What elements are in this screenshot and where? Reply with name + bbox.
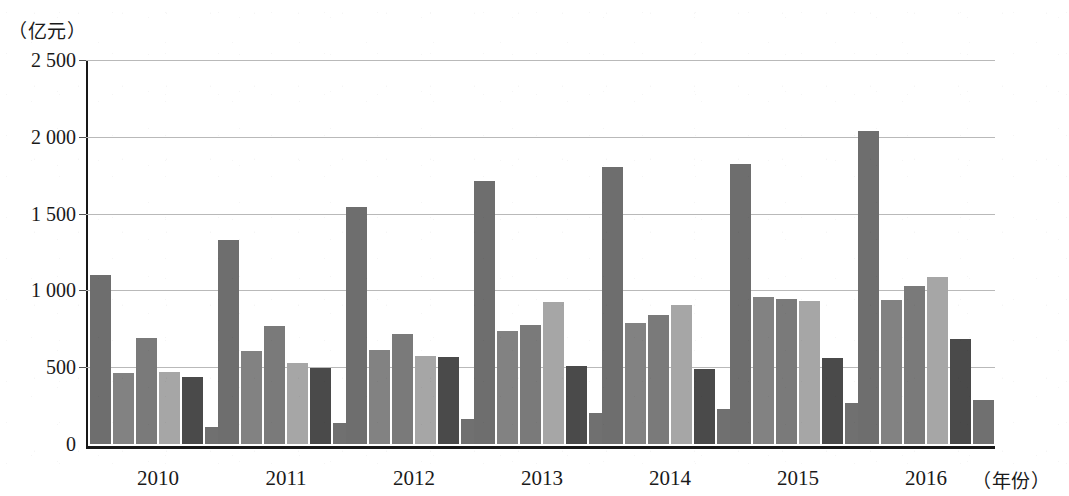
plot-area <box>86 60 995 447</box>
bar <box>927 277 948 444</box>
y-axis-tick-label: 500 <box>6 356 76 379</box>
bar <box>182 377 203 444</box>
bar <box>950 339 971 444</box>
bar <box>438 357 459 444</box>
y-axis-tick-label: 0 <box>6 433 76 456</box>
x-axis-line <box>86 446 995 449</box>
y-axis-tick-label: 1 500 <box>6 202 76 225</box>
y-axis-tick <box>79 60 86 61</box>
bar <box>881 300 902 444</box>
x-axis-category-label: 2013 <box>521 466 563 491</box>
x-axis-category-label: 2014 <box>649 466 691 491</box>
y-axis-tick-label: 2 000 <box>6 125 76 148</box>
bar <box>264 326 285 444</box>
x-axis-unit-label: （年份） <box>972 466 1050 493</box>
bar <box>90 275 111 444</box>
bar <box>497 331 518 444</box>
y-axis-tick-label: 1 000 <box>6 279 76 302</box>
bar <box>799 301 820 444</box>
bar <box>543 302 564 444</box>
gridline <box>86 60 995 61</box>
bar <box>113 373 134 444</box>
bar <box>822 358 843 444</box>
bar <box>625 323 646 444</box>
bar <box>310 368 331 444</box>
bar <box>346 207 367 444</box>
bar <box>973 400 994 444</box>
bar <box>858 131 879 444</box>
bar <box>566 366 587 444</box>
y-axis-tick <box>79 367 86 368</box>
bar <box>648 315 669 444</box>
y-axis-tick <box>79 290 86 291</box>
bar <box>671 305 692 444</box>
y-axis-unit-label: （亿元） <box>8 16 86 43</box>
bar <box>520 325 541 444</box>
y-axis-tick <box>79 137 86 138</box>
x-axis-category-label: 2012 <box>393 466 435 491</box>
x-axis-category-label: 2016 <box>905 466 947 491</box>
bar <box>753 297 774 444</box>
x-axis-category-label: 2010 <box>137 466 179 491</box>
bar <box>602 167 623 444</box>
x-axis-category-label: 2015 <box>777 466 819 491</box>
x-axis-category-label: 2011 <box>265 466 306 491</box>
bar <box>159 372 180 444</box>
bar-chart: （亿元） （年份） 05001 0001 5002 0002 500201020… <box>0 0 1069 496</box>
bar <box>776 299 797 444</box>
y-axis-tick <box>79 214 86 215</box>
bar <box>474 181 495 444</box>
bar <box>287 363 308 444</box>
bar <box>694 369 715 444</box>
bar <box>904 286 925 444</box>
bar <box>241 351 262 444</box>
bar <box>392 334 413 444</box>
bar <box>369 350 390 444</box>
y-axis-tick-label: 2 500 <box>6 49 76 72</box>
bar <box>415 356 436 444</box>
bar <box>730 164 751 444</box>
y-axis-line <box>86 60 88 448</box>
bar <box>136 338 157 444</box>
bar <box>218 240 239 444</box>
